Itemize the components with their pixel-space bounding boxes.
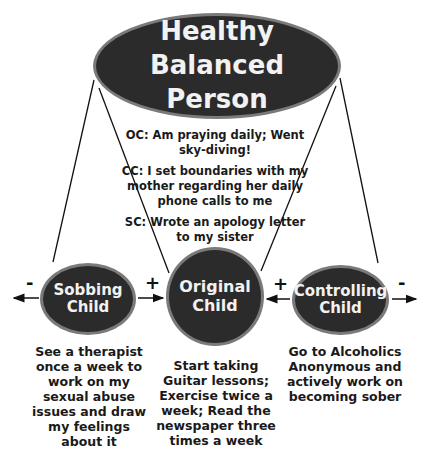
minus-sign-left: - bbox=[26, 274, 33, 292]
caption-sobbing-child: See a therapist once a week to work on m… bbox=[30, 344, 148, 449]
caption-controlling-child: Go to Alcoholics Anonymous and actively … bbox=[280, 344, 410, 404]
node-label: Sobbing Child bbox=[43, 282, 133, 317]
note-cc: CC: I set boundaries with my mother rega… bbox=[120, 164, 310, 209]
minus-sign-right: - bbox=[398, 274, 405, 292]
node-label: Controlling Child bbox=[294, 283, 388, 318]
plus-sign-right: + bbox=[273, 275, 288, 293]
node-controlling-child: Controlling Child bbox=[292, 265, 389, 335]
node-original-child: Original Child bbox=[166, 247, 264, 346]
note-oc: OC: Am praying daily; Went sky-diving! bbox=[120, 128, 310, 158]
node-label: Original Child bbox=[169, 278, 261, 315]
caption-original-child: Start taking Guitar lessons; Exercise tw… bbox=[155, 358, 277, 448]
node-healthy-balanced-person: Healthy Balanced Person bbox=[93, 13, 341, 119]
node-label: Healthy Balanced Person bbox=[96, 15, 338, 116]
line-top-to-controlling bbox=[340, 78, 378, 263]
plus-sign-left: + bbox=[145, 274, 160, 292]
note-sc: SC: Wrote an apology letter to my sister bbox=[120, 215, 310, 245]
node-sobbing-child: Sobbing Child bbox=[40, 263, 136, 335]
notes-block: OC: Am praying daily; Went sky-diving! C… bbox=[120, 128, 310, 251]
line-top-to-sobbing bbox=[53, 80, 94, 262]
